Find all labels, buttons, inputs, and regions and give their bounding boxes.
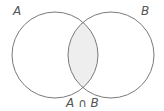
set-b-label: B <box>141 5 149 17</box>
venn-diagram <box>0 0 164 111</box>
set-a-label: A <box>13 5 21 17</box>
intersection-label: A ∩ B <box>66 97 99 109</box>
